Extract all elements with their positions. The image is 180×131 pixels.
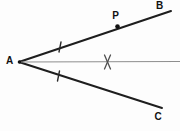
label-A: A [6, 55, 13, 66]
point-P-dot [115, 24, 120, 29]
angle-bisector-ray [19, 62, 180, 63]
geometry-diagram: ABCP [0, 0, 180, 131]
label-P: P [112, 10, 119, 21]
label-B: B [156, 0, 163, 11]
ray-AB [19, 11, 171, 62]
label-C: C [154, 111, 161, 122]
angle-tick-on-AB [59, 42, 61, 52]
geometry-figure-canvas: ABCP [0, 0, 180, 131]
angle-tick-on-AC [58, 71, 60, 81]
point-A-dot [18, 60, 22, 64]
ray-AC [19, 62, 162, 108]
